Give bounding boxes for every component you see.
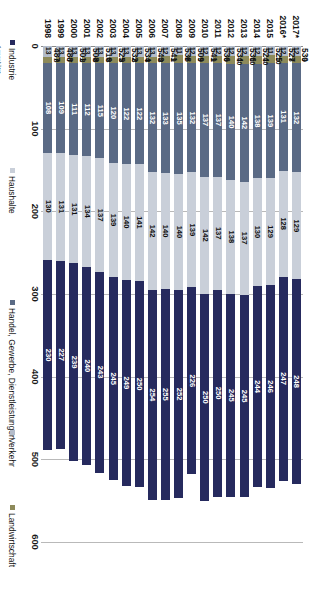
segment-value-label: 137: [240, 232, 248, 245]
bar-row: 112134240: [82, 46, 91, 542]
bar-row: 115137243: [95, 46, 104, 542]
year-label: 2015: [265, 19, 275, 38]
bar-segment: 247: [279, 277, 288, 481]
bar-segment: 250: [213, 290, 222, 497]
bar-total-label: 527: [287, 48, 297, 62]
segment-value-label: 250: [135, 378, 143, 391]
gridline: [41, 46, 303, 47]
bar-segment: 245: [109, 277, 118, 480]
year-label: 2004: [121, 19, 131, 38]
year-label: 2000: [69, 19, 79, 38]
segment-value-label: 140: [162, 225, 170, 238]
segment-value-label: 140: [175, 226, 183, 239]
segment-value-label: 131: [280, 110, 288, 123]
gridline: [41, 129, 303, 130]
bar-total-label: 487: [52, 48, 62, 62]
segment-value-label: 140: [122, 216, 130, 229]
bar-total-label: 530: [300, 48, 309, 62]
segment-value-label: 137: [214, 114, 222, 127]
bar-row: 137142250: [200, 46, 209, 542]
bar-segment: 227: [56, 261, 65, 449]
value-axis: 0100200300400500600: [21, 46, 41, 542]
bar-total-label: 541: [209, 48, 219, 62]
segment-value-label: 128: [280, 217, 288, 230]
segment-value-label: 139: [109, 214, 117, 227]
bar-total-label: 540: [156, 48, 166, 62]
bar-segment: 142: [148, 172, 157, 289]
segment-value-label: 254: [149, 389, 157, 402]
segment-value-label: 246: [266, 380, 274, 393]
segment-value-label: 226: [188, 374, 196, 387]
segment-value-label: 108: [44, 102, 52, 115]
value-axis-tick: 100: [30, 121, 41, 136]
bar-segment: 240: [82, 267, 91, 465]
bar-row: 109131227: [56, 46, 65, 542]
bar-segment: 142: [200, 177, 209, 294]
value-axis-tick: 300: [30, 286, 41, 301]
segment-value-label: 132: [149, 112, 157, 125]
gridline: [41, 459, 303, 460]
bar-row: 120139245: [109, 46, 118, 542]
bar-segment: 115: [95, 63, 104, 158]
bar-segment: 248: [292, 279, 301, 484]
bar-segment: 132: [187, 63, 196, 172]
bar-segment: 130: [43, 153, 52, 260]
bar-row: 122140249: [122, 46, 131, 542]
legend-swatch: [10, 430, 15, 435]
bar-total-label: 488: [65, 48, 75, 62]
legend-item: Haushalte: [7, 168, 17, 214]
segment-value-label: 230: [44, 349, 52, 362]
segment-value-label: 139: [266, 114, 274, 127]
bar-row: 138130244: [253, 46, 262, 542]
year-label: 2006: [147, 19, 157, 38]
bar-total-label: 509: [196, 48, 206, 62]
plot-area: 1321292481295301311282471285271391292461…: [41, 46, 303, 542]
segment-value-label: 137: [214, 227, 222, 240]
bar-segment: 137: [200, 63, 209, 176]
bar-segment: 140: [174, 174, 183, 290]
bar-segment: 132: [148, 63, 157, 172]
segment-value-label: 142: [201, 229, 209, 242]
bar-segment: 252: [174, 290, 183, 498]
bar-total-label: 524: [261, 48, 271, 62]
segment-value-label: 133: [162, 112, 170, 125]
segment-value-label: 244: [253, 380, 261, 393]
segment-value-label: 137: [201, 114, 209, 127]
bar-segment: 255: [161, 289, 170, 500]
segment-value-label: 109: [57, 101, 65, 114]
value-axis-tick: 500: [30, 452, 41, 467]
legend-label: Handel, Gewerbe, Dienstleistungen: [7, 308, 17, 440]
bar-segment: 250: [200, 294, 209, 501]
segment-value-label: 243: [96, 366, 104, 379]
legend-swatch: [10, 300, 15, 305]
footnotes: * geschätzt Quelle: BDEW; Stand 02/2018: [0, 46, 3, 586]
gridline: [41, 377, 303, 378]
segment-value-label: 245: [240, 390, 248, 403]
bar-segment: 246: [266, 285, 275, 488]
legend-item: Landwirtschaft: [7, 505, 17, 567]
bar-total-label: 534: [143, 48, 153, 62]
year-label: 1998: [43, 19, 53, 38]
bar-segment: 112: [82, 63, 91, 156]
bar-row: 132129248: [292, 46, 301, 542]
year-label: 2014: [252, 19, 262, 38]
value-axis-tick: 600: [30, 534, 41, 549]
legend-label: Haushalte: [7, 176, 17, 214]
segment-value-label: 249: [122, 377, 130, 390]
segment-value-label: 137: [96, 209, 104, 222]
bar-segment: 226: [187, 287, 196, 474]
year-label: 2010: [200, 19, 210, 38]
bar-segment: 139: [266, 63, 275, 178]
category-axis-years: 2017*2016*201520142013201220112010200920…: [41, 0, 303, 40]
bar-segment: 109: [56, 63, 65, 153]
bar-row: 142137245: [240, 46, 249, 542]
segment-value-label: 120: [109, 107, 117, 120]
bar-segment: 239: [69, 263, 78, 461]
segment-value-label: 227: [57, 348, 65, 361]
segment-value-label: 131: [57, 200, 65, 213]
bar-segment: 140: [122, 164, 131, 280]
bar-segment: 142: [240, 64, 249, 181]
bar-segment: 137: [240, 182, 249, 295]
segment-value-label: 140: [227, 116, 235, 129]
bar-segment: 133: [161, 63, 170, 173]
